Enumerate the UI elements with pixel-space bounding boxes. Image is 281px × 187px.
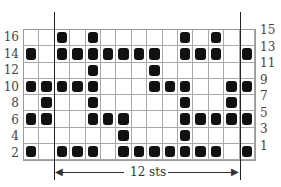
empty-stitch [209,63,224,79]
filled-stitch [39,111,54,127]
row-label: 1 [260,140,268,152]
empty-stitch [132,95,147,111]
empty-stitch [240,63,255,79]
empty-stitch [39,63,54,79]
empty-stitch [132,79,147,95]
empty-stitch [39,144,54,160]
filled-stitch [55,79,70,95]
row-label: 11 [260,57,275,69]
row-label: 14 [4,48,19,60]
filled-stitch [70,46,85,62]
filled-stitch [55,30,70,46]
empty-stitch [70,30,85,46]
row-label: 10 [4,81,19,93]
empty-stitch [24,128,39,144]
empty-stitch [39,30,54,46]
empty-stitch [163,46,178,62]
empty-stitch [224,46,239,62]
filled-stitch [224,79,239,95]
empty-stitch [224,128,239,144]
repeat-end-line [240,12,241,180]
filled-stitch [24,111,39,127]
empty-stitch [101,79,116,95]
row-label: 7 [260,90,268,102]
empty-stitch [24,95,39,111]
filled-stitch [55,46,70,62]
empty-stitch [70,95,85,111]
row-label: 16 [4,31,19,43]
filled-stitch [70,144,85,160]
empty-stitch [240,128,255,144]
repeat-arrow-right-line [168,172,238,173]
empty-stitch [116,79,131,95]
row-label: 3 [260,123,268,135]
empty-stitch [147,30,162,46]
empty-stitch [70,111,85,127]
filled-stitch [86,95,101,111]
filled-stitch [24,79,39,95]
filled-stitch [178,46,193,62]
empty-stitch [70,63,85,79]
arrow-right-icon: ▶ [231,167,239,177]
empty-stitch [132,30,147,46]
filled-stitch [193,144,208,160]
filled-stitch [240,79,255,95]
empty-stitch [39,128,54,144]
empty-stitch [86,128,101,144]
filled-stitch [86,46,101,62]
filled-stitch [101,46,116,62]
filled-stitch [24,144,39,160]
filled-stitch [39,95,54,111]
row-label: 5 [260,107,268,119]
empty-stitch [193,63,208,79]
filled-stitch [132,144,147,160]
empty-stitch [55,111,70,127]
empty-stitch [116,95,131,111]
filled-stitch [240,111,255,127]
empty-stitch [147,111,162,127]
empty-stitch [224,30,239,46]
filled-stitch [178,128,193,144]
row-label: 12 [4,64,19,76]
filled-stitch [116,111,131,127]
filled-stitch [178,144,193,160]
filled-stitch [116,144,131,160]
empty-stitch [132,63,147,79]
filled-stitch [86,63,101,79]
filled-stitch [147,79,162,95]
filled-stitch [240,46,255,62]
filled-stitch [193,111,208,127]
empty-stitch [240,30,255,46]
filled-stitch [55,144,70,160]
empty-stitch [101,144,116,160]
filled-stitch [163,144,178,160]
filled-stitch [101,111,116,127]
filled-stitch [116,46,131,62]
row-label: 15 [260,24,275,36]
empty-stitch [193,30,208,46]
empty-stitch [147,95,162,111]
arrow-left-icon: ◀ [55,167,63,177]
empty-stitch [55,63,70,79]
filled-stitch [209,46,224,62]
empty-stitch [163,128,178,144]
filled-stitch [39,79,54,95]
filled-stitch [86,111,101,127]
row-label: 8 [11,97,19,109]
empty-stitch [163,63,178,79]
filled-stitch [209,111,224,127]
empty-stitch [163,111,178,127]
empty-stitch [209,128,224,144]
empty-stitch [101,128,116,144]
empty-stitch [70,128,85,144]
empty-stitch [163,30,178,46]
repeat-arrow-left-line [56,172,124,173]
empty-stitch [55,128,70,144]
empty-stitch [55,95,70,111]
empty-stitch [132,111,147,127]
filled-stitch [178,95,193,111]
empty-stitch [101,63,116,79]
filled-stitch [224,95,239,111]
filled-stitch [240,144,255,160]
repeat-label: 12 sts [127,166,169,178]
